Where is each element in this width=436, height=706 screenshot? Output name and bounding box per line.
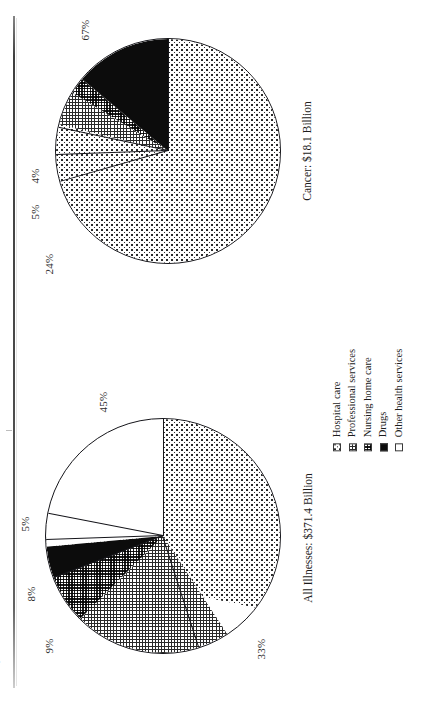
legend-label-professional-services: Professional services (347, 349, 358, 437)
pie-all-illnesses-disc (45, 418, 281, 654)
pie-label-professional-services: 24% (43, 254, 55, 275)
legend-item-professional-services: Professional services (347, 349, 359, 452)
legend-item-drugs: Drugs (378, 349, 390, 452)
figure-stage: 67% 4% 5% 24% Cancer: $18.1 Billion (0, 0, 436, 706)
legend-item-other-health-services: Other health services (393, 349, 405, 452)
legend-swatch-professional-services-icon (349, 443, 357, 451)
legend-item-nursing-home-care: Nursing home care (362, 349, 374, 452)
legend-item-hospital-care: Hospital care (331, 349, 343, 452)
legend-swatch-other-health-services-icon (395, 443, 403, 451)
pie-title-cancer: Cancer: $18.1 Billion (301, 101, 313, 200)
pie-title-all-illnesses: All Illnesses: $371.4 Billion (302, 473, 314, 603)
chart-legend: Hospital care Professional services Nurs… (318, 330, 418, 470)
pie-label-drugs: 4% (29, 168, 41, 183)
pie-label-hospital-care: 45% (97, 392, 109, 413)
legend-swatch-drugs-icon (380, 443, 388, 451)
legend-label-other-health-services: Other health services (394, 349, 405, 438)
pie-label-drugs: 8% (25, 586, 37, 601)
legend-swatch-hospital-care-icon (333, 443, 341, 451)
pie-chart-all-illnesses: 45% 5% 8% 9% 33% (45, 418, 281, 654)
pie-separator (163, 419, 164, 536)
pie-label-other-health-services: 5% (19, 516, 31, 531)
pie-separator (168, 39, 169, 151)
legend-label-nursing-home-care: Nursing home care (363, 357, 374, 437)
legend-label-hospital-care: Hospital care (332, 382, 343, 438)
legend-swatch-nursing-home-care-icon (364, 443, 372, 451)
pie-chart-cancer: 67% 4% 5% 24% (55, 38, 281, 264)
pie-label-nursing-home-care: 9% (43, 638, 55, 653)
pie-label-professional-services: 33% (255, 639, 267, 660)
legend-label-drugs: Drugs (378, 412, 389, 438)
pie-cancer-disc (55, 38, 281, 264)
pie-label-nursing-home-care: 5% (29, 204, 41, 219)
pie-label-hospital-care: 67% (79, 20, 91, 41)
